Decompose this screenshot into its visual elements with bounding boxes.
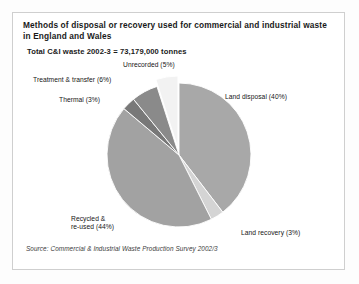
pie-label-land-disposal: Land disposal (40%) [225, 93, 287, 101]
screenshot-root: Methods of disposal or recovery used for… [0, 0, 359, 284]
pie-chart: Unrecorded (5%) Treatment & transfer (6%… [13, 13, 344, 269]
pie-label-unrecorded: Unrecorded (5%) [123, 61, 175, 69]
pie-label-recycled-reused: Recycled & re-used (44%) [71, 215, 114, 232]
chart-panel: Methods of disposal or recovery used for… [12, 12, 345, 270]
pie-label-land-recovery: Land recovery (3%) [241, 229, 300, 237]
pie-label-thermal: Thermal (3%) [59, 96, 100, 104]
source-note: Source: Commercial & Industrial Waste Pr… [26, 245, 336, 252]
pie-label-treatment-transfer: Treatment & transfer (6%) [33, 76, 111, 84]
